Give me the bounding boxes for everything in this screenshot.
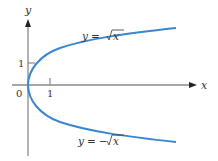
x-axis: [12, 82, 197, 88]
origin-label: 0: [16, 88, 22, 99]
x-axis-label: x: [201, 79, 208, 92]
x-axis-arrow-icon: [189, 82, 197, 88]
x-tick-label: 1: [47, 88, 53, 99]
y-tick-label: 1: [18, 58, 24, 69]
sqrt-curve-upper: [28, 28, 176, 85]
upper-equation: y= x: [81, 30, 124, 42]
parabola-diagram: y x 0 1 1 y= x y=− x: [0, 0, 218, 161]
upper-eq-rhs: x: [113, 30, 119, 42]
lower-eq-rhs: x: [113, 135, 119, 147]
y-axis-label: y: [24, 4, 32, 17]
y-axis-arrow-icon: [25, 19, 31, 27]
lower-eq-lhs: y=−: [77, 135, 108, 147]
lower-equation: y=− x: [77, 135, 124, 147]
upper-eq-lhs: y=: [81, 30, 100, 42]
